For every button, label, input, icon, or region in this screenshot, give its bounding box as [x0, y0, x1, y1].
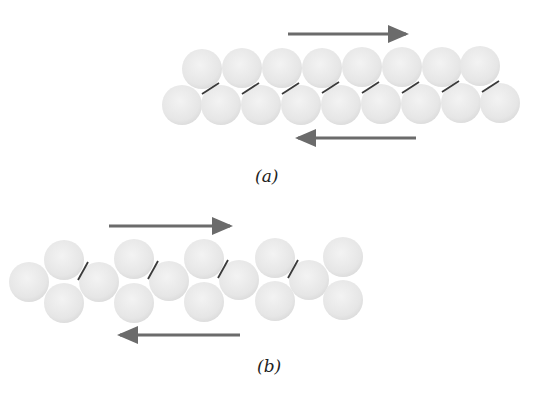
panel-b — [9, 226, 363, 335]
panel-a — [162, 34, 520, 138]
top-row-atoms — [182, 46, 500, 89]
bottom-row-atoms — [162, 83, 520, 125]
panel-label-b: (b) — [257, 356, 281, 376]
shear-diagram — [0, 0, 536, 397]
panel-label-a: (a) — [255, 166, 278, 186]
